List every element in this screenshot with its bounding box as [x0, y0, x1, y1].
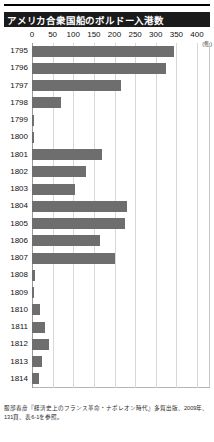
y-axis-label-1809: 1809: [0, 288, 28, 297]
plot-area: 050100150200250300350400 (隻) 17951796179…: [0, 30, 214, 400]
y-axis-label-1813: 1813: [0, 357, 28, 366]
y-axis-label-1812: 1812: [0, 339, 28, 348]
x-axis-tick-100: 100: [67, 30, 80, 39]
bar-row: 1796: [0, 60, 214, 77]
y-axis-label-1796: 1796: [0, 63, 28, 72]
bar-1801: [32, 149, 102, 160]
bar-1804: [32, 201, 127, 212]
x-axis-tick-200: 200: [108, 30, 121, 39]
chart-figure: アメリカ合衆国船のボルドー入港数 05010015020025030035040…: [0, 0, 214, 442]
bar-1814: [32, 373, 39, 384]
bar-1803: [32, 184, 75, 195]
bar-row: 1795: [0, 43, 214, 60]
bar-1808: [32, 270, 35, 281]
x-axis-tick-300: 300: [149, 30, 162, 39]
bar-1796: [32, 63, 166, 74]
bar-1805: [32, 218, 125, 229]
bar-1811: [32, 322, 45, 333]
bar-row: 1806: [0, 233, 214, 250]
y-axis-label-1805: 1805: [0, 219, 28, 228]
y-axis-label-1803: 1803: [0, 184, 28, 193]
y-axis-label-1810: 1810: [0, 305, 28, 314]
source-citation: 服部春彦『経済史上のフランス革命・ナポレオン時代』多賀出版、2009年、131頁…: [4, 404, 210, 421]
y-axis-label-1807: 1807: [0, 253, 28, 262]
bar-1812: [32, 339, 49, 350]
y-axis-label-1795: 1795: [0, 46, 28, 55]
bar-row: 1811: [0, 319, 214, 336]
y-axis-label-1802: 1802: [0, 167, 28, 176]
bar-row: 1803: [0, 181, 214, 198]
x-axis-tick-0: 0: [30, 30, 34, 39]
y-axis-label-1799: 1799: [0, 115, 28, 124]
y-axis-label-1808: 1808: [0, 270, 28, 279]
x-axis-tick-250: 250: [128, 30, 141, 39]
bar-row: 1802: [0, 164, 214, 181]
bar-row: 1813: [0, 354, 214, 371]
bar-1813: [32, 356, 42, 367]
bar-row: 1809: [0, 285, 214, 302]
y-axis-label-1804: 1804: [0, 201, 28, 210]
page-title: アメリカ合衆国船のボルドー入港数: [4, 13, 164, 27]
y-axis-label-1801: 1801: [0, 150, 28, 159]
bar-row: 1807: [0, 250, 214, 267]
bar-1810: [32, 304, 40, 315]
bar-rows: 1795179617971798179918001801180218031804…: [0, 43, 214, 388]
bar-row: 1800: [0, 129, 214, 146]
bar-1802: [32, 166, 86, 177]
bar-1807: [32, 253, 115, 264]
x-axis-tick-350: 350: [170, 30, 183, 39]
bar-row: 1798: [0, 95, 214, 112]
chart-title-bar: アメリカ合衆国船のボルドー入港数: [4, 12, 210, 27]
bar-row: 1810: [0, 302, 214, 319]
y-axis-label-1811: 1811: [0, 322, 28, 331]
bar-row: 1801: [0, 147, 214, 164]
bar-row: 1804: [0, 198, 214, 215]
y-axis-label-1797: 1797: [0, 81, 28, 90]
y-axis-label-1806: 1806: [0, 236, 28, 245]
bar-row: 1808: [0, 267, 214, 284]
x-axis-tick-labels: 050100150200250300350400: [0, 30, 214, 43]
x-axis-tick-400: 400: [190, 30, 203, 39]
bar-row: 1814: [0, 371, 214, 388]
y-axis-label-1798: 1798: [0, 98, 28, 107]
bar-row: 1812: [0, 336, 214, 353]
bar-1799: [32, 115, 34, 126]
x-axis-tick-50: 50: [48, 30, 57, 39]
bar-1806: [32, 235, 100, 246]
bar-1809: [32, 287, 34, 298]
bar-1800: [32, 132, 34, 143]
y-axis-label-1814: 1814: [0, 374, 28, 383]
bar-1795: [32, 46, 174, 57]
top-rule: [4, 4, 210, 6]
y-axis-label-1800: 1800: [0, 132, 28, 141]
bar-row: 1799: [0, 112, 214, 129]
x-axis-tick-150: 150: [87, 30, 100, 39]
bar-row: 1805: [0, 216, 214, 233]
bar-row: 1797: [0, 78, 214, 95]
bar-1798: [32, 97, 61, 108]
bar-1797: [32, 80, 121, 91]
